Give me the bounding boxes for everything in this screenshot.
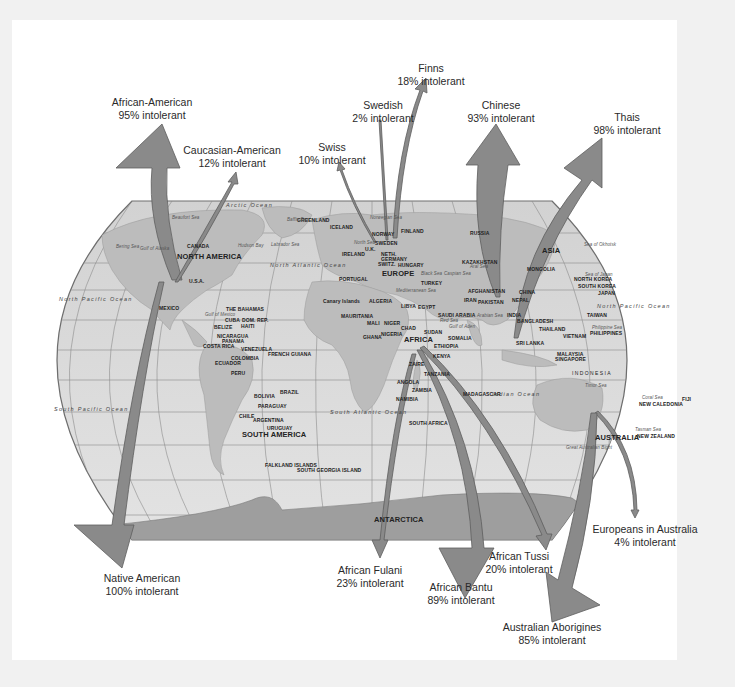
label-portugal: PORTUGAL [339,276,368,282]
label-vietnam: VIETNAM [563,333,586,339]
label-singapore: SINGAPORE [555,356,586,362]
label-niger: NIGER [384,320,400,326]
label-haiti: HAITI [241,323,255,329]
label-thailand: THAILAND [539,326,565,332]
label-argentina: ARGENTINA [253,417,284,423]
label-angola: ANGOLA [397,379,419,385]
label-timor-sea: Timor Sea [585,383,607,388]
label-south-georgia-island: SOUTH GEORGIA ISLAND [297,467,361,473]
label-afghanistan: AFGHANISTAN [468,288,505,294]
label-antarctica: ANTARCTICA [374,515,424,524]
label-north-america: NORTH AMERICA [177,252,242,261]
label-labrador-sea: Labrador Sea [271,242,299,247]
label-uruguay: URUGUAY [267,425,293,431]
map-figure: NORTH AMERICA SOUTH AMERICA EUROPE AFRIC… [12,20,677,660]
label-belize: BELIZE [214,324,232,330]
label-north-sea: North Sea [354,240,375,245]
label-australia: AUSTRALIA [595,433,639,442]
label-iran: IRAN [464,297,477,303]
label-turkey: TURKEY [421,280,442,286]
label-zaire: ZAIRE [409,361,425,367]
label-sudan: SUDAN [424,329,442,335]
label-bolivia: BOLIVIA [254,393,275,399]
population-label-swedish: Swedish2% intolerant [352,99,413,124]
label-switz: SWITZ. [378,261,396,267]
label-philippine-sea: Philippine Sea [592,325,622,330]
label-russia: RUSSIA [470,230,490,236]
label-gulf-of-mexico: Gulf of Mexico [205,312,235,317]
label-aral-sea: Aral Sea [470,264,488,269]
label-china: CHINA [519,289,535,295]
label-madagascar: MADAGASCAR [463,391,501,397]
label-hudson-bay: Hudson Bay [238,243,264,248]
label-philippines: PHILIPPINES [590,330,622,336]
label-canada: CANADA [187,243,209,249]
label-namibia: NAMIBIA [396,396,418,402]
label-tanzania: TANZANIA [424,371,450,377]
population-label-african-bantu: African Bantu89% intolerant [427,581,494,606]
label-north-pacific-ocean-west: North Pacific Ocean [59,296,133,302]
label-beaufort-sea: Beaufort Sea [172,215,199,220]
population-label-african-fulani: African Fulani23% intolerant [336,564,403,589]
label-pakistan: PAKISTAN [478,299,504,305]
label-libya: LIBYA [401,303,416,309]
label-uk: U.K. [365,246,375,252]
label-europe: EUROPE [382,269,414,278]
label-nepal: NEPAL [512,297,529,303]
population-label-europeans-australia: Europeans in Australia4% intolerant [592,523,697,548]
label-mediterranean-sea: Mediterranean Sea [396,288,436,293]
label-cuba: CUBA [225,317,240,323]
label-south-america: SOUTH AMERICA [242,430,306,439]
label-taiwan: TAIWAN [587,312,607,318]
label-asia: ASIA [542,246,560,255]
label-chad: CHAD [401,325,416,331]
label-somalia: SOMALIA [448,335,472,341]
label-zambia: ZAMBIA [412,387,432,393]
label-mauritania: MAURITANIA [341,313,373,319]
label-norwegian-sea: Norwegian Sea [370,215,402,220]
label-tasman-sea: Tasman Sea [635,427,661,432]
label-gulf-of-aden: Gulf of Aden [449,324,475,329]
label-arabian-sea: Arabian Sea [477,313,503,318]
label-costa-rica: COSTA RICA [203,343,235,349]
label-sea-of-okhotsk: Sea of Okhotsk [584,242,616,247]
label-great-australian-bight: Great Australian Bight [566,445,612,450]
label-new-caledonia: NEW CALEDONIA [639,401,683,407]
population-label-african-american: African-American95% intolerant [112,96,193,121]
label-north-atlantic-ocean: North Atlantic Ocean [270,262,347,268]
label-bering-sea: Bering Sea [116,244,139,249]
label-algeria: ALGERIA [369,298,392,304]
label-ethiopia: ETHIOPIA [434,343,458,349]
label-ecuador: ECUADOR [215,360,241,366]
label-bangladesh: BANGLADESH [517,318,553,324]
label-red-sea: Red Sea [440,318,458,323]
label-baffin-bay: Baffin Bay [287,217,309,222]
label-usa: U.S.A. [189,278,204,284]
label-norway: NORWAY [372,231,395,237]
label-south-africa: SOUTH AFRICA [409,420,448,426]
population-label-caucasian-american: Caucasian-American12% intolerant [183,144,280,169]
label-egypt: EGYPT [418,304,435,310]
label-africa: AFRICA [404,335,433,344]
label-peru: PERU [231,370,245,376]
label-arctic-ocean: Arctic Ocean [226,202,273,208]
label-ghana: GHANA [363,334,382,340]
label-kenya: KENYA [433,353,451,359]
label-nigeria: NIGERIA [381,331,403,337]
label-mongolia: MONGOLIA [527,266,555,272]
population-label-finns: Finns18% intolerant [397,62,464,87]
label-mexico: MEXICO [159,305,179,311]
population-label-thais: Thais98% intolerant [593,111,660,136]
label-north-pacific-ocean-east: North Pacific Ocean [597,303,671,309]
label-finland: FINLAND [401,228,424,234]
label-coral-sea: Coral Sea [642,395,663,400]
label-gulf-of-alaska: Gulf of Alaska [140,246,169,251]
label-caspian-sea: Caspian Sea [444,271,471,276]
label-mali: MALI [367,320,380,326]
label-indonesia: INDONESIA [572,370,612,376]
label-ireland: IRELAND [342,251,365,257]
population-label-native-american: Native American100% intolerant [104,572,180,597]
label-canary-islands: Canary Islands [323,298,360,304]
population-label-australian-aborigines: Australian Aborigines85% intolerant [503,621,602,646]
population-label-african-tussi: African Tussi20% intolerant [485,550,552,575]
